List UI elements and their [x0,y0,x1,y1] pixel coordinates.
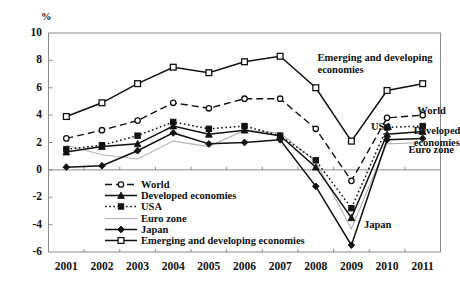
legend-item-label: Emerging and developing economies [141,235,305,246]
legend-item-label: World [141,179,170,190]
y-tick-label: 10 [8,26,42,38]
annotation-line: Emerging and developing [318,52,433,64]
x-tick-label: 2010 [367,260,407,272]
chart-screenshot: % -6-4-20246810 200120022003200420052006… [0,0,460,286]
legend-swatch-icon [104,201,138,212]
legend-item-label: Euro zone [141,213,187,224]
y-tick-label: 0 [8,163,42,175]
x-tick-label: 2003 [118,260,158,272]
x-tick-label: 2008 [296,260,336,272]
x-tick-label: 2005 [189,260,229,272]
legend-swatch-icon [104,190,138,201]
y-tick-label: 2 [8,136,42,148]
x-tick-label: 2009 [331,260,371,272]
annotation-line: World [417,105,446,117]
annotation-line: Japan [364,219,391,231]
x-tick-label: 2006 [225,260,265,272]
x-tick-label: 2011 [403,260,443,272]
legend-item[interactable]: World [104,179,305,190]
legend-item-label: Japan [141,224,168,235]
y-tick-label: -2 [8,190,42,202]
annotation-label: Euro zone [408,144,454,156]
x-tick-label: 2007 [260,260,300,272]
legend-item[interactable]: Japan [104,224,305,235]
legend-item-label: Developed economies [141,190,236,201]
y-tick-label: 4 [8,108,42,120]
legend-swatch-icon [104,213,138,224]
y-tick-label: -4 [8,218,42,230]
legend-item[interactable]: Euro zone [104,213,305,224]
annotation-label: USA [371,121,392,133]
legend-swatch-icon [104,179,138,190]
legend-item[interactable]: Emerging and developing economies [104,235,305,246]
annotation-line: USA [371,121,392,133]
legend-item[interactable]: USA [104,201,305,212]
annotation-line: Developed [414,125,460,137]
annotation-line: economies [318,64,433,76]
x-tick-label: 2004 [153,260,193,272]
y-tick-label: 6 [8,81,42,93]
annotation-line: Euro zone [408,144,454,156]
annotation-label: Emerging and developingeconomies [318,52,433,76]
x-tick-label: 2002 [82,260,122,272]
annotation-label: Japan [364,219,391,231]
x-tick-label: 2001 [46,260,86,272]
legend-item[interactable]: Developed economies [104,190,305,201]
y-tick-label: -6 [8,245,42,257]
legend-swatch-icon [104,235,138,246]
annotation-label: World [417,105,446,117]
chart-legend: WorldDeveloped economiesUSAEuro zoneJapa… [104,179,305,246]
legend-swatch-icon [104,224,138,235]
legend-item-label: USA [141,201,162,212]
y-tick-label: 8 [8,53,42,65]
